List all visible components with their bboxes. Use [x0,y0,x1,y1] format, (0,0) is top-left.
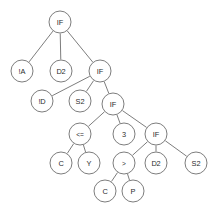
tree-node[interactable]: IF [102,93,124,115]
tree-node-label: C [58,159,64,168]
tree-node-label: S2 [192,159,201,168]
tree-node-label: > [122,160,126,167]
tree-edge [128,174,130,180]
tree-canvas: IF!AD2IF!DS2IF<=3IFCY>D2S2CP [0,0,224,212]
tree-edge [29,31,53,62]
tree-node-label: IF [57,18,64,27]
tree-node[interactable]: C [94,180,116,202]
tree-node[interactable]: > [113,152,135,174]
tree-edge [67,31,92,62]
node-layer: IF!AD2IF!DS2IF<=3IFCY>D2S2CP [11,11,207,202]
tree-node-label: IF [110,100,117,109]
tree-edge [83,145,85,152]
tree-node[interactable]: IF [145,123,167,145]
tree-node[interactable]: Y [78,152,100,174]
tree-node[interactable]: IF [49,11,71,33]
tree-edge [165,141,186,157]
tree-node[interactable]: S2 [69,90,91,112]
tree-node-label: !A [19,67,26,76]
tree-node-label: IF [153,130,160,139]
tree-node-label: D2 [151,159,160,168]
tree-node-label: Y [87,159,92,168]
tree-node-label: D2 [56,67,65,76]
tree-edge [111,173,117,182]
tree-node-label: IF [97,67,104,76]
tree-node-label: !D [38,97,45,106]
tree-edge [89,112,105,127]
tree-node-label: P [131,187,136,196]
tree-node[interactable]: C [50,152,72,174]
tree-node[interactable]: P [122,180,144,202]
tree-node-label: <= [76,131,84,138]
tree-edge [117,115,120,123]
tree-edge [67,144,73,154]
tree-node[interactable]: !A [11,60,33,82]
tree-edge [86,81,93,92]
tree-node[interactable]: 3 [113,123,135,145]
tree-node[interactable]: IF [89,60,111,82]
tree-node-label: S2 [76,97,85,106]
tree-node[interactable]: S2 [185,152,207,174]
tree-node-label: C [102,187,108,196]
tree-edge [133,142,148,156]
tree-node[interactable]: !D [31,90,53,112]
tree-node[interactable]: D2 [50,60,72,82]
tree-edge [60,34,61,60]
expression-tree-diagram: IF!AD2IF!DS2IF<=3IFCY>D2S2CP [0,0,224,212]
tree-edge [104,82,109,94]
tree-node[interactable]: <= [69,123,91,145]
tree-node[interactable]: D2 [145,152,167,174]
tree-node-label: 3 [122,130,126,139]
